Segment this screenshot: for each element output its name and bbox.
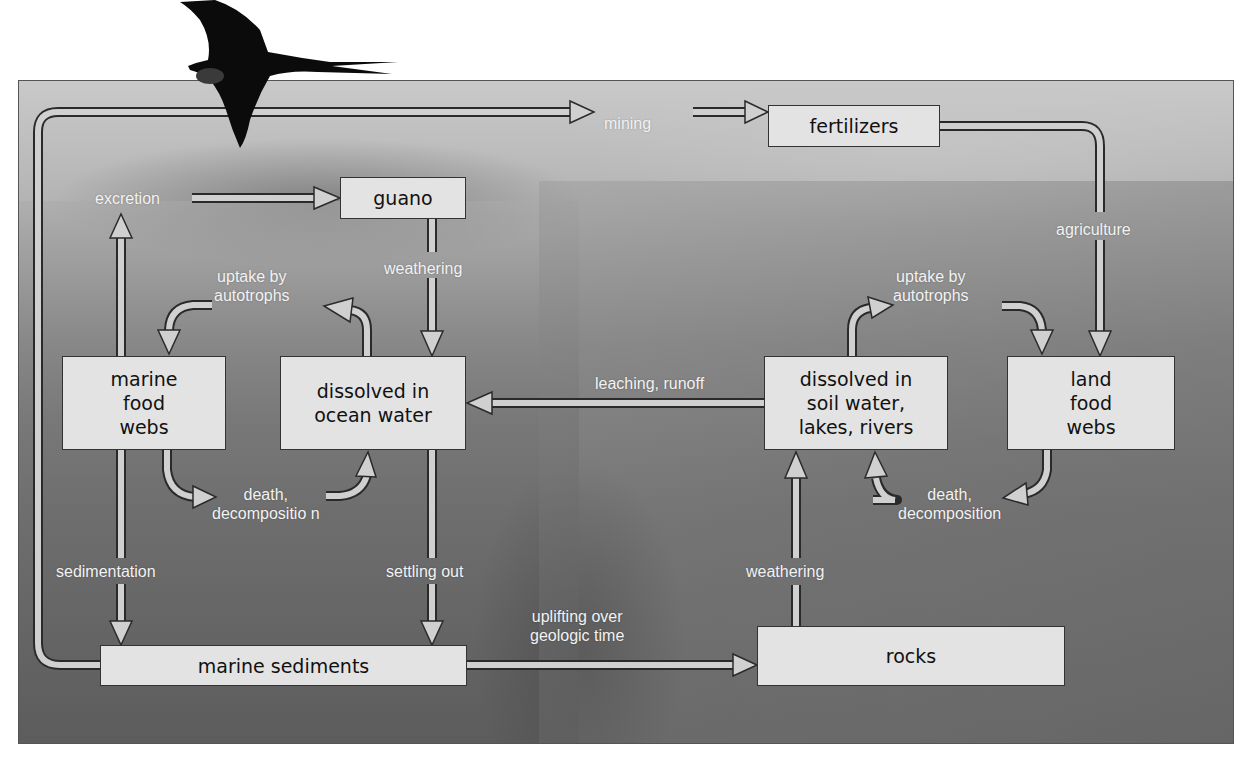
node-dissolved-soil-line1: dissolved in bbox=[800, 367, 912, 391]
label-sedimentation: sedimentation bbox=[56, 562, 156, 581]
label-death-land: death, decomposition bbox=[898, 485, 1001, 523]
label-uptake-marine-line2: autotrophs bbox=[214, 286, 290, 305]
node-marine-food-webs: marine food webs bbox=[62, 356, 226, 450]
label-agriculture: agriculture bbox=[1056, 220, 1131, 239]
label-death-marine: death, decompositio n bbox=[212, 485, 320, 523]
node-rocks-label: rocks bbox=[886, 644, 936, 668]
node-dissolved-soil-line2: soil water, bbox=[807, 391, 905, 415]
node-fertilizers-label: fertilizers bbox=[810, 114, 899, 138]
node-dissolved-ocean-line1: dissolved in bbox=[317, 379, 429, 403]
node-fertilizers: fertilizers bbox=[768, 105, 940, 147]
label-weathering-guano: weathering bbox=[384, 259, 462, 278]
node-dissolved-ocean-line2: ocean water bbox=[314, 403, 432, 427]
label-uplifting: uplifting over geologic time bbox=[530, 607, 624, 645]
node-marine-food-webs-line3: webs bbox=[119, 415, 168, 439]
node-land-food-webs: land food webs bbox=[1007, 356, 1175, 450]
node-guano-label: guano bbox=[373, 186, 432, 210]
label-mining: mining bbox=[604, 114, 651, 133]
node-marine-sediments: marine sediments bbox=[100, 645, 467, 686]
label-uptake-marine: uptake by autotrophs bbox=[214, 267, 290, 305]
node-marine-sediments-label: marine sediments bbox=[198, 654, 370, 678]
label-leaching-runoff: leaching, runoff bbox=[595, 374, 704, 393]
label-excretion: excretion bbox=[95, 189, 160, 208]
node-dissolved-ocean: dissolved in ocean water bbox=[280, 356, 466, 450]
label-uptake-land-line2: autotrophs bbox=[893, 286, 969, 305]
node-guano: guano bbox=[340, 177, 466, 219]
label-uptake-land-line1: uptake by bbox=[893, 267, 969, 286]
node-land-food-webs-line3: webs bbox=[1066, 415, 1115, 439]
label-settling-out: settling out bbox=[386, 562, 463, 581]
label-death-marine-line2: decompositio n bbox=[212, 504, 320, 523]
label-weathering-rocks: weathering bbox=[746, 562, 824, 581]
node-marine-food-webs-line2: food bbox=[123, 391, 165, 415]
label-uptake-land: uptake by autotrophs bbox=[893, 267, 969, 305]
node-land-food-webs-line2: food bbox=[1070, 391, 1112, 415]
label-uplifting-line1: uplifting over bbox=[530, 607, 624, 626]
label-uptake-marine-line1: uptake by bbox=[214, 267, 290, 286]
node-rocks: rocks bbox=[757, 626, 1065, 686]
node-marine-food-webs-line1: marine bbox=[111, 367, 178, 391]
label-death-land-line2: decomposition bbox=[898, 504, 1001, 523]
label-death-land-line1: death, bbox=[898, 485, 1001, 504]
label-death-marine-line1: death, bbox=[212, 485, 320, 504]
node-dissolved-soil-line3: lakes, rivers bbox=[799, 415, 914, 439]
node-dissolved-soil: dissolved in soil water, lakes, rivers bbox=[764, 356, 948, 450]
node-land-food-webs-line1: land bbox=[1070, 367, 1111, 391]
label-uplifting-line2: geologic time bbox=[530, 626, 624, 645]
